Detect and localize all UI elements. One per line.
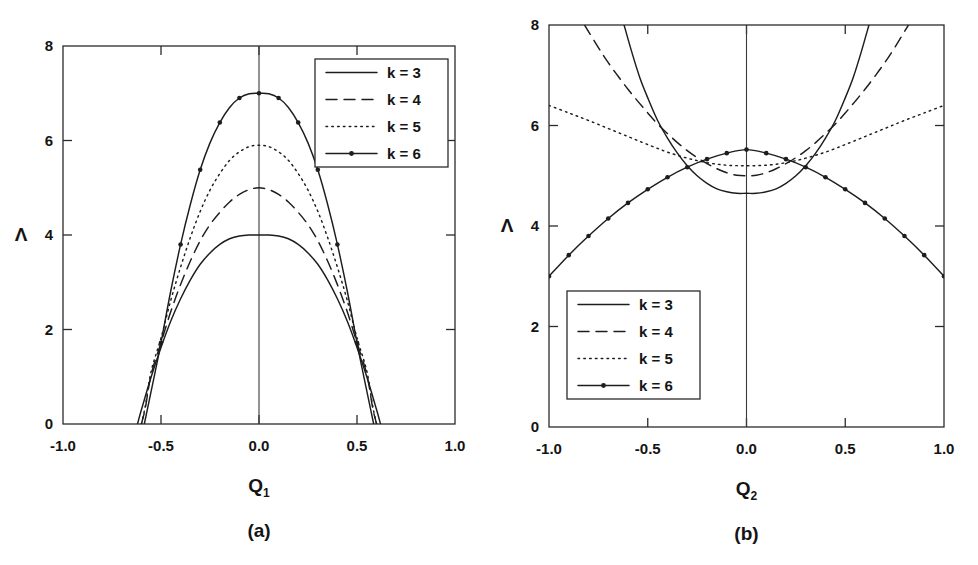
panel-a: -1.0-0.50.00.51.002468 k = 3k = 4k = 5k …	[0, 0, 489, 565]
y-tick-label: 8	[45, 37, 53, 54]
series-marker	[902, 234, 907, 239]
series-marker	[586, 234, 591, 239]
legend-label[interactable]: k = 3	[387, 64, 421, 81]
series-marker	[178, 242, 183, 247]
y-tick-label: 8	[531, 16, 539, 33]
legend-swatch-marker	[349, 151, 354, 156]
x-tick-label: 0.5	[347, 437, 368, 454]
series-marker	[296, 120, 301, 125]
series-marker	[626, 201, 631, 206]
series-marker	[645, 187, 650, 192]
series-marker	[744, 147, 749, 152]
legend-label[interactable]: k = 6	[387, 145, 421, 162]
chart-a-svg: -1.0-0.50.00.51.002468 k = 3k = 4k = 5k …	[0, 0, 489, 565]
x-tick-label: 1.0	[445, 437, 466, 454]
series-marker	[218, 120, 223, 125]
series-marker	[863, 201, 868, 206]
series-marker	[685, 165, 690, 170]
legend-label[interactable]: k = 5	[387, 118, 421, 135]
series-marker	[724, 151, 729, 156]
series-marker	[705, 157, 710, 162]
legend-label[interactable]: k = 6	[639, 377, 673, 394]
panel-caption: (b)	[734, 523, 758, 544]
y-axis-title: Λ	[501, 215, 514, 236]
y-axis-title: Λ	[15, 224, 28, 245]
series-marker	[843, 187, 848, 192]
x-axis-title: Q2	[736, 478, 758, 503]
x-axis-title: Q1	[248, 475, 270, 500]
chart-b-legend[interactable]: k = 3k = 4k = 5k = 6	[567, 291, 700, 399]
x-tick-label: 0.0	[249, 437, 270, 454]
legend-swatch-marker	[601, 383, 606, 388]
series-marker	[159, 340, 164, 345]
x-tick-label: 0.0	[736, 440, 757, 457]
series-marker	[665, 175, 670, 180]
y-tick-label: 6	[45, 132, 53, 149]
chart-b-svg: -1.0-0.50.00.51.002468 k = 3k = 4k = 5k …	[489, 0, 978, 565]
x-tick-label: -0.5	[148, 437, 174, 454]
series-marker	[547, 274, 552, 279]
series-marker	[355, 340, 360, 345]
series-marker	[922, 253, 927, 258]
legend-label[interactable]: k = 3	[639, 296, 673, 313]
x-tick-label: -0.5	[635, 440, 661, 457]
x-tick-label: -1.0	[536, 440, 562, 457]
chart-a-labels: ΛQ1(a)	[15, 224, 271, 541]
series-marker	[335, 242, 340, 247]
y-tick-label: 2	[45, 321, 53, 338]
series-marker	[823, 175, 828, 180]
series-marker	[942, 274, 947, 279]
y-tick-label: 6	[531, 117, 539, 134]
y-tick-label: 0	[531, 418, 539, 435]
x-tick-label: 1.0	[934, 440, 955, 457]
x-tick-label: 0.5	[835, 440, 856, 457]
series-marker	[257, 91, 262, 96]
series-marker	[198, 168, 203, 173]
panel-b: -1.0-0.50.00.51.002468 k = 3k = 4k = 5k …	[489, 0, 978, 565]
series-marker	[606, 216, 611, 221]
series-marker	[882, 216, 887, 221]
y-tick-label: 2	[531, 318, 539, 335]
legend-label[interactable]: k = 4	[387, 91, 421, 108]
series-marker	[803, 165, 808, 170]
x-tick-label: -1.0	[50, 437, 76, 454]
series-marker	[276, 96, 281, 101]
series-marker	[316, 168, 321, 173]
chart-a-legend[interactable]: k = 3k = 4k = 5k = 6	[315, 59, 448, 167]
series-marker	[237, 96, 242, 101]
series-marker	[566, 253, 571, 258]
y-tick-label: 4	[531, 217, 540, 234]
series-marker	[764, 151, 769, 156]
y-tick-label: 4	[45, 226, 54, 243]
series-marker	[784, 157, 789, 162]
legend-label[interactable]: k = 5	[639, 350, 673, 367]
y-tick-label: 0	[45, 415, 53, 432]
legend-label[interactable]: k = 4	[639, 323, 673, 340]
panel-caption: (a)	[247, 520, 270, 541]
